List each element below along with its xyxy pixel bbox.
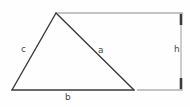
triangle-side-c-line xyxy=(12,13,56,90)
side-label-c: c xyxy=(21,45,26,54)
geometry-figure: c a b h xyxy=(0,0,190,107)
triangle-side-a-line xyxy=(56,13,134,90)
height-label-h: h xyxy=(174,45,180,54)
triangle-diagram-svg xyxy=(0,0,190,107)
side-label-b: b xyxy=(65,93,71,102)
side-label-a: a xyxy=(98,46,104,55)
